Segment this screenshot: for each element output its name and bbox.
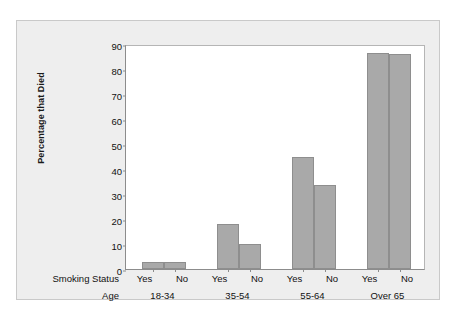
smoking-status-row: YesNo (125, 273, 200, 284)
y-tick-label: 30 (111, 191, 122, 202)
y-tick-mark (123, 71, 126, 72)
y-tick-label: 70 (111, 91, 122, 102)
y-tick-label: 50 (111, 141, 122, 152)
smoking-status-row: YesNo (275, 273, 350, 284)
x-tick-mark (400, 269, 401, 272)
smoking-status-label: No (176, 273, 188, 284)
x-tick-mark (153, 269, 154, 272)
x-tick-mark (228, 269, 229, 272)
bar (389, 54, 411, 269)
y-tick-mark (123, 171, 126, 172)
age-group-label: Over 65 (350, 290, 425, 301)
chart-panel: Percentage that Died 0102030405060708090… (16, 20, 440, 300)
y-axis-title: Percentage that Died (36, 48, 46, 188)
x-tick-mark (303, 269, 304, 272)
x-tick-mark (175, 269, 176, 272)
y-tick-label: 10 (111, 241, 122, 252)
y-tick-label: 40 (111, 166, 122, 177)
smoking-status-label: No (326, 273, 338, 284)
smoking-status-label: Yes (212, 273, 228, 284)
x-axis-labels: Smoking Status Age YesNo18-34YesNo35-54Y… (125, 273, 425, 313)
smoking-status-row: YesNo (350, 273, 425, 284)
bar (164, 262, 186, 270)
y-tick-mark (123, 121, 126, 122)
age-group-label: 35-54 (200, 290, 275, 301)
age-group-label: 55-64 (275, 290, 350, 301)
y-tick-label: 20 (111, 216, 122, 227)
bar (292, 157, 314, 270)
bar (367, 53, 389, 269)
smoking-status-label: No (251, 273, 263, 284)
row-header-age: Age (102, 290, 119, 301)
smoking-status-label: Yes (137, 273, 153, 284)
smoking-status-label: Yes (362, 273, 378, 284)
plot-area: 0102030405060708090 (125, 45, 425, 270)
y-tick-mark (123, 196, 126, 197)
y-tick-label: 60 (111, 116, 122, 127)
bar (239, 244, 261, 269)
x-tick-mark (378, 269, 379, 272)
bar (142, 262, 164, 270)
row-header-smoking-status: Smoking Status (52, 273, 119, 284)
smoking-status-row: YesNo (200, 273, 275, 284)
y-tick-mark (123, 146, 126, 147)
x-tick-mark (250, 269, 251, 272)
bar (314, 185, 336, 269)
y-tick-label: 80 (111, 66, 122, 77)
smoking-status-label: Yes (287, 273, 303, 284)
y-tick-mark (123, 221, 126, 222)
y-tick-label: 90 (111, 41, 122, 52)
y-tick-mark (123, 246, 126, 247)
y-tick-mark (123, 46, 126, 47)
age-group-label: 18-34 (125, 290, 200, 301)
smoking-status-label: No (401, 273, 413, 284)
y-tick-mark (123, 271, 126, 272)
x-tick-mark (325, 269, 326, 272)
bar (217, 224, 239, 269)
y-tick-mark (123, 96, 126, 97)
